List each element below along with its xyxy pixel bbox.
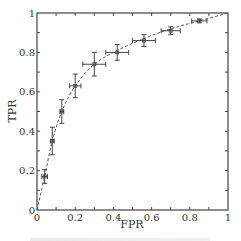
x-tick-label: 0.6 (144, 212, 160, 223)
y-tick-label: 0 (29, 205, 35, 216)
roc-chart: 00.20.40.60.8100.20.40.60.81 FPR TPR (0, 0, 241, 241)
y-tick-label: 0.6 (19, 86, 35, 97)
data-point (50, 127, 55, 155)
x-tick-label: 1 (225, 212, 231, 223)
data-points (42, 18, 207, 183)
x-axis-label: FPR (120, 218, 144, 231)
x-tick-label: 0.8 (182, 212, 198, 223)
data-point (69, 74, 80, 98)
data-point (161, 27, 180, 35)
x-tick-label: 0.2 (67, 212, 83, 223)
chart-canvas: 00.20.40.60.8100.20.40.60.81 FPR TPR (0, 0, 241, 241)
data-point (133, 35, 156, 47)
x-tick-label: 0.4 (105, 212, 121, 223)
data-point (42, 170, 48, 184)
y-tick-label: 0.2 (19, 165, 35, 176)
y-tick-label: 0.4 (19, 126, 35, 137)
y-axis-label: TPR (6, 99, 19, 123)
tick-labels: 00.20.40.60.8100.20.40.60.81 (19, 8, 231, 224)
y-tick-label: 1 (29, 8, 35, 19)
y-tick-label: 0.8 (19, 47, 35, 58)
data-point (59, 100, 64, 124)
data-point (192, 18, 207, 23)
